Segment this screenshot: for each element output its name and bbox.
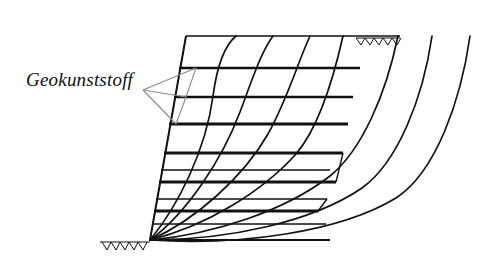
ground-hatch-bottom xyxy=(100,242,150,250)
slip-surface-3 xyxy=(150,36,310,240)
leader-bracket-upper xyxy=(186,68,196,97)
slip-surface-4 xyxy=(150,36,343,240)
ground-surface-group xyxy=(150,36,400,240)
slope-face-line xyxy=(150,36,186,240)
leader-line-1 xyxy=(143,68,196,90)
figure-root: Geokunststoff xyxy=(0,0,497,268)
ground-hatch-top xyxy=(356,38,401,45)
geosynthetic-label: Geokunststoff xyxy=(26,70,133,89)
slip-surface-5 xyxy=(150,36,398,240)
reinforcement-layers-group xyxy=(152,68,360,224)
leader-bracket-lower xyxy=(176,97,186,124)
slope-cross-section-diagram xyxy=(0,0,497,268)
slip-surface-1 xyxy=(150,36,236,240)
